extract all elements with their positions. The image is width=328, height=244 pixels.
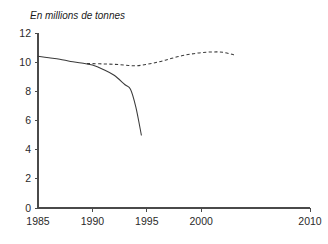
x-axis-ticks: 19851990199520002010 xyxy=(26,208,322,227)
y-axis-ticks: 024681012 xyxy=(19,27,38,214)
y-tick-label: 2 xyxy=(25,172,31,184)
y-tick-label: 8 xyxy=(25,85,31,97)
line-chart: En millions de tonnes 024681012 19851990… xyxy=(0,0,328,244)
x-tick-label: 2000 xyxy=(190,215,214,227)
chart-title: En millions de tonnes xyxy=(30,10,125,21)
series-group xyxy=(38,52,234,135)
series-observed xyxy=(38,56,141,135)
x-tick-label: 1990 xyxy=(81,215,105,227)
x-tick-label: 2010 xyxy=(298,215,322,227)
y-tick-label: 0 xyxy=(25,202,31,214)
x-tick-label: 1985 xyxy=(26,215,50,227)
y-tick-label: 10 xyxy=(19,56,31,68)
x-tick-label: 1995 xyxy=(135,215,159,227)
y-tick-label: 6 xyxy=(25,114,31,126)
series-projected xyxy=(87,52,234,66)
chart-container: En millions de tonnes 024681012 19851990… xyxy=(0,0,328,244)
y-tick-label: 4 xyxy=(25,143,31,155)
y-tick-label: 12 xyxy=(19,27,31,39)
